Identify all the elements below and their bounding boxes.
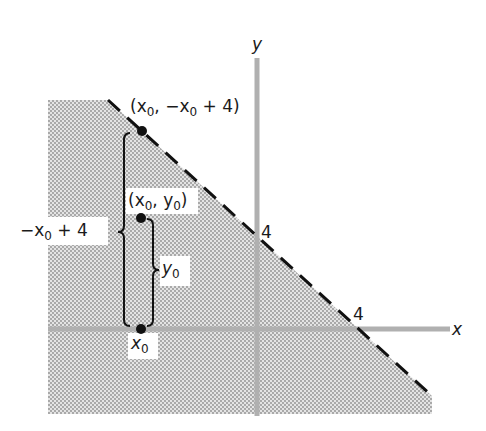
point-on-line <box>137 126 147 136</box>
point-inside <box>136 213 146 223</box>
x-intercept-label: 4 <box>353 304 364 324</box>
x-axis-label: x <box>451 319 463 339</box>
y-axis-label: y <box>251 34 263 54</box>
tall-brace-label: −x0 + 4 <box>20 220 88 243</box>
point-on-line-label: (x0, −x0 + 4) <box>130 96 240 119</box>
graph-canvas: y x 4 4 (x0, −x0 + 4) (x0, y0) x0 −x0 + … <box>0 0 486 431</box>
inequality-graph-figure: y x 4 4 (x0, −x0 + 4) (x0, y0) x0 −x0 + … <box>0 0 486 431</box>
shaded-region <box>48 100 432 414</box>
y-intercept-label: 4 <box>261 222 272 242</box>
